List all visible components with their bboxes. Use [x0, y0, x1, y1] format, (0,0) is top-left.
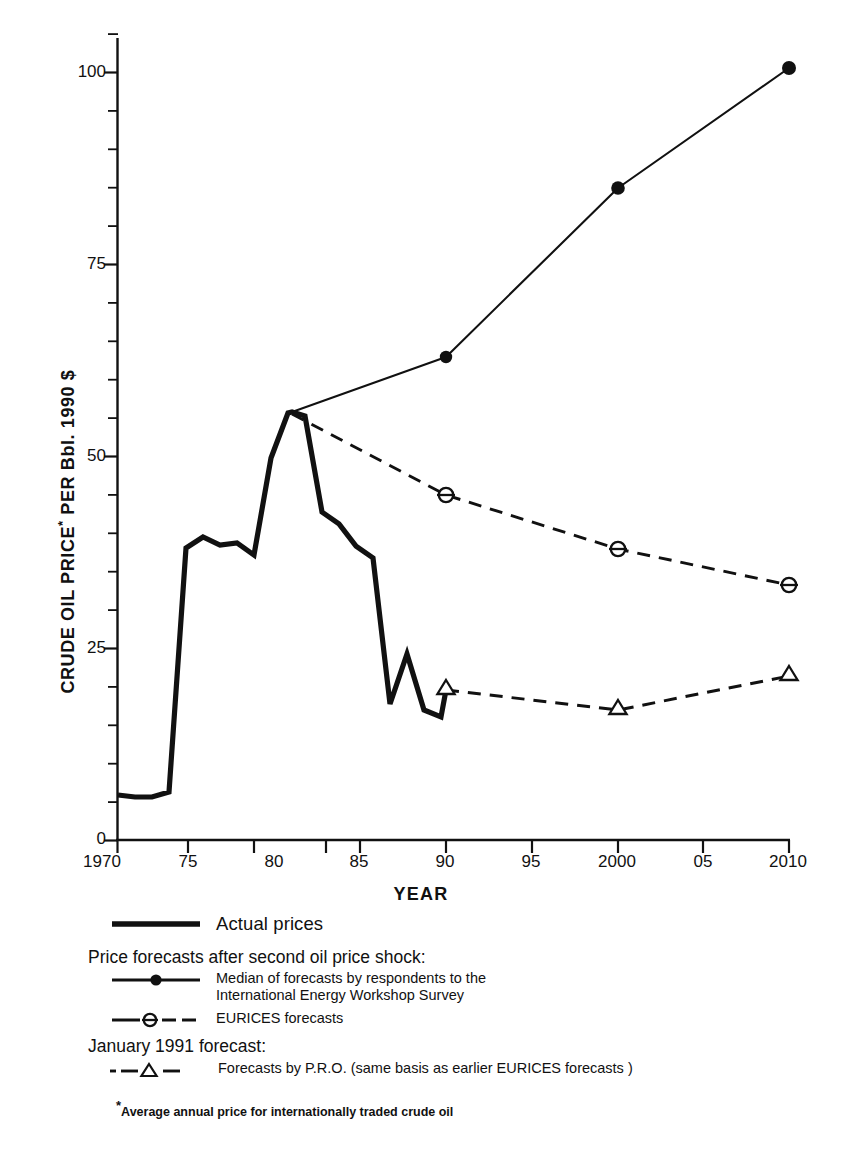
legend-label-actual-prices: Actual prices	[216, 914, 323, 933]
legend-item-pro: Forecasts by P.R.O. (same basis as earli…	[94, 1060, 633, 1080]
axes	[116, 38, 790, 841]
marker-pro-1990	[437, 680, 454, 694]
marker-iew-2010	[782, 61, 796, 75]
legend-key-eurices	[96, 1010, 216, 1030]
dashed-line-triangle-icon	[108, 1061, 200, 1079]
solid-thick-line-icon	[110, 916, 202, 932]
legend-label-pro: Forecasts by P.R.O. (same basis as earli…	[214, 1060, 633, 1077]
series-iew-median	[292, 68, 789, 412]
legend-label-eurices: EURICES forecasts	[216, 1010, 343, 1027]
legend-key-iew-median	[96, 970, 216, 990]
solid-line-filled-circle-icon	[110, 972, 202, 988]
x-axis-ticks	[118, 840, 790, 853]
legend-key-actual-prices	[96, 914, 216, 934]
legend-item-eurices: EURICES forecasts	[96, 1010, 343, 1030]
legend-heading-jan1991: January 1991 forecast:	[88, 1036, 266, 1056]
dashed-line-open-circle-icon	[110, 1011, 202, 1029]
legend-heading-forecasts: Price forecasts after second oil price s…	[88, 947, 426, 967]
legend-item-actual-prices: Actual prices	[96, 914, 323, 934]
marker-iew-1990	[440, 351, 452, 363]
marker-eurices-2000	[609, 542, 627, 556]
chart-legend: Actual prices Price forecasts after seco…	[0, 900, 842, 1166]
marker-pro-2010	[780, 666, 797, 680]
marker-pro-2000	[609, 700, 626, 714]
marker-eurices-2010	[780, 578, 798, 592]
legend-item-iew-median: Median of forecasts by respondents to th…	[96, 970, 486, 1004]
legend-label-iew-median: Median of forecasts by respondents to th…	[216, 970, 486, 1004]
footnote-text: Average annual price for internationally…	[121, 1105, 453, 1119]
marker-iew-2000	[611, 181, 625, 195]
chart-figure: CRUDE OIL PRICE* PER Bbl. 1990 $ 100 75 …	[0, 0, 842, 1166]
marker-eurices-1990	[437, 488, 455, 502]
legend-label-iew-line1: Median of forecasts by respondents to th…	[216, 970, 486, 987]
plot-area	[0, 0, 842, 900]
legend-footnote: *Average annual price for internationall…	[116, 1098, 453, 1120]
legend-key-pro	[94, 1060, 214, 1080]
series-eurices	[292, 414, 789, 585]
legend-label-iew-line2: International Energy Workshop Survey	[216, 987, 486, 1004]
y-axis-minor-ticks	[108, 34, 118, 802]
